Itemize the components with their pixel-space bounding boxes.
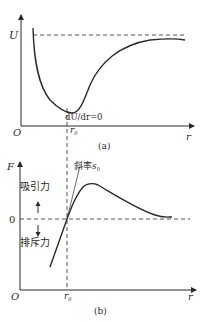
panel-b: F 0 O r r0 斜率s0 吸引力 排斥力 (b)	[6, 160, 196, 316]
diagram-canvas: U O r r0 dU/dr=0 (a) F 0 O r r0 斜率s0 吸引力…	[0, 0, 207, 322]
a-origin-label: O	[13, 127, 21, 138]
a-x-axis-label: r	[186, 131, 192, 142]
b-origin-label: O	[11, 291, 19, 302]
a-min-annotation: dU/dr=0	[65, 112, 103, 122]
a-r0-label: r0	[70, 125, 78, 136]
b-force-curve	[50, 184, 172, 267]
b-caption: (b)	[94, 306, 107, 316]
up-arrow-icon	[36, 201, 41, 213]
b-r0-label: r0	[64, 291, 72, 302]
b-attraction-label: 吸引力	[20, 180, 50, 192]
b-x-axis-label: r	[188, 291, 194, 302]
b-y-axis-label: F	[6, 161, 15, 172]
b-repulsion-label: 排斥力	[20, 236, 50, 248]
a-caption: (a)	[98, 141, 110, 151]
b-zero-label: 0	[9, 214, 15, 225]
down-arrow-icon	[36, 225, 41, 237]
a-y-axis-label: U	[9, 29, 19, 42]
a-potential-curve	[33, 28, 185, 113]
b-tangent-line	[67, 166, 80, 219]
b-slope-label: 斜率s0	[74, 160, 100, 172]
panel-a: U O r r0 dU/dr=0 (a)	[9, 15, 194, 151]
